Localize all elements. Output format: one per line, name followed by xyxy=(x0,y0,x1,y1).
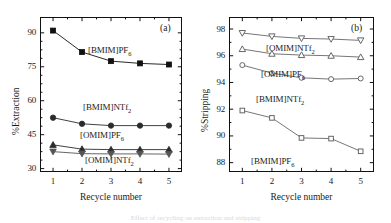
series-[BMIM]NTf2 xyxy=(50,115,171,128)
y-tick-label: 94 xyxy=(205,78,225,87)
series-annotation-subscript: 6 xyxy=(302,74,305,81)
x-tick-label: 4 xyxy=(324,177,338,186)
series-annotation-subscript: 6 xyxy=(291,161,294,168)
x-tick-label: 1 xyxy=(46,177,60,186)
series-annotation-text: [OMIM]NTf xyxy=(85,155,131,165)
panel-extraction: %Extraction Recycle number (a) 304560759… xyxy=(0,0,196,223)
x-tick-label: 5 xyxy=(354,177,368,186)
series-annotation: [BMIM]PF6 xyxy=(88,46,131,55)
series-annotation: [BMIM]PF6 xyxy=(251,157,294,166)
series-annotation-text: [OMIM]NTf xyxy=(266,43,312,53)
series-annotation-subscript: 2 xyxy=(312,48,315,55)
x-axis-title-b: Recycle number xyxy=(229,193,374,203)
y-tick-label: 30 xyxy=(16,164,36,173)
x-tick-label: 1 xyxy=(235,177,249,186)
series-[BMIM]PF6 xyxy=(240,108,363,153)
x-tick-label: 4 xyxy=(133,177,147,186)
series-annotation-text: [OMIM]PF xyxy=(80,130,121,140)
series-[OMIM]NTf2 xyxy=(239,31,364,44)
series-annotation: [BMIM]NTf2 xyxy=(256,95,304,104)
x-tick-label: 3 xyxy=(104,177,118,186)
series-annotation: [BMIM]NTf2 xyxy=(83,103,131,112)
x-axis-title-a: Recycle number xyxy=(40,193,182,203)
series-annotation-subscript: 6 xyxy=(121,135,124,142)
series-annotation-text: [BMIM]PF xyxy=(88,45,128,55)
panel-tag-a: (a) xyxy=(160,24,171,34)
x-tick-label: 2 xyxy=(265,177,279,186)
x-tick-label: 3 xyxy=(295,177,309,186)
series-annotation-text: [OMIM]PF xyxy=(261,69,302,79)
y-tick-label: 75 xyxy=(16,62,36,71)
series-annotation-subscript: 6 xyxy=(128,50,131,57)
y-axis-title-a: %Extraction xyxy=(12,88,22,135)
x-tick-label: 2 xyxy=(75,177,89,186)
series-annotation-subscript: 2 xyxy=(131,160,134,167)
series-annotation-text: [BMIM]NTf xyxy=(256,94,301,104)
y-tick-label: 90 xyxy=(16,28,36,37)
figure-caption-fragment: Effect of recycling on extraction and st… xyxy=(0,213,391,223)
series-annotation-subscript: 2 xyxy=(128,107,131,114)
y-tick-label: 45 xyxy=(16,130,36,139)
y-tick-label: 92 xyxy=(205,105,225,114)
panel-stripping: %Stripping Recycle number (b) 8890929496… xyxy=(196,0,391,223)
y-tick-label: 90 xyxy=(205,131,225,140)
y-tick-label: 98 xyxy=(205,25,225,34)
series-annotation-text: [BMIM]PF xyxy=(251,156,291,166)
series-annotation: [OMIM]NTf2 xyxy=(85,156,134,165)
series-annotation: [OMIM]PF6 xyxy=(261,70,305,79)
y-tick-label: 96 xyxy=(205,51,225,60)
y-tick-label: 88 xyxy=(205,158,225,167)
y-tick-label: 60 xyxy=(16,96,36,105)
series-annotation-text: [BMIM]NTf xyxy=(83,102,128,112)
series-annotation: [OMIM]PF6 xyxy=(80,131,124,140)
x-tick-label: 5 xyxy=(162,177,176,186)
series-annotation: [OMIM]NTf2 xyxy=(266,44,315,53)
panel-tag-b: (b) xyxy=(351,24,362,34)
figure-container: %Extraction Recycle number (a) 304560759… xyxy=(0,0,391,223)
series-annotation-subscript: 2 xyxy=(301,99,304,106)
